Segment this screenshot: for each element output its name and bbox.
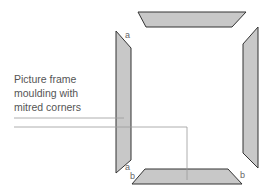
- corner-label-b-bottom-left: b: [130, 171, 135, 181]
- diagram-caption: Picture frame moulding with mitred corne…: [14, 72, 81, 114]
- corner-label-a-top: a: [125, 30, 130, 40]
- top-moulding-piece: [138, 12, 246, 27]
- corner-label-b-bottom-right: b: [240, 170, 245, 180]
- right-moulding-piece: [243, 27, 258, 168]
- caption-line-1: Picture frame: [14, 72, 81, 86]
- caption-line-3: mitred corners: [14, 100, 81, 114]
- caption-line-2: moulding with: [14, 86, 81, 100]
- left-moulding-piece: [116, 31, 131, 173]
